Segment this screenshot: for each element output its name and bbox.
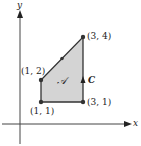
x-axis-label: x bbox=[133, 119, 138, 128]
vertex-1-2 bbox=[39, 78, 43, 82]
vertex-label-3-4: (3, 4) bbox=[87, 32, 111, 41]
vertex-label-3-1: (3, 1) bbox=[87, 98, 111, 107]
hypotenuse-midpoint-marker bbox=[60, 57, 64, 61]
vertex-label-1-1: (1, 1) bbox=[30, 107, 54, 116]
region-label: 𝒜 bbox=[57, 76, 66, 86]
vertex-1-1 bbox=[39, 100, 43, 104]
x-axis-arrow-icon bbox=[124, 121, 132, 127]
vertex-3-1 bbox=[81, 100, 85, 104]
y-axis-label: y bbox=[17, 1, 22, 10]
curve-label: C bbox=[88, 76, 95, 85]
vertex-3-4 bbox=[81, 35, 85, 39]
region-fill bbox=[41, 37, 83, 102]
y-axis-arrow-icon bbox=[17, 10, 23, 18]
vertex-label-1-2: (1, 2) bbox=[21, 67, 45, 76]
diagram-canvas: y x (1, 1) (3, 1) (3, 4) (1, 2) 𝒜 C bbox=[0, 0, 141, 146]
